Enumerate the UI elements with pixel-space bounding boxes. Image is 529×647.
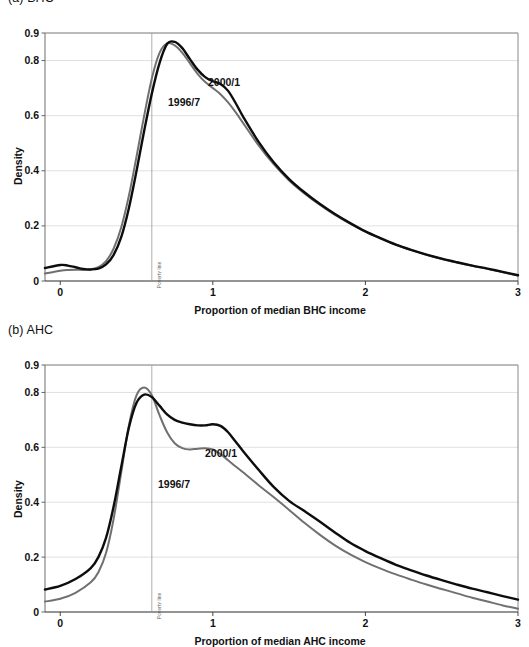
svg-text:0.9: 0.9: [24, 359, 39, 371]
panel-a-poverty-line-label: Poverty line: [157, 262, 162, 288]
svg-text:3: 3: [515, 286, 521, 298]
svg-text:2: 2: [362, 286, 368, 298]
svg-text:3: 3: [515, 617, 521, 629]
panel-a-plot-area: 00.20.40.60.80.90123: [0, 0, 529, 323]
panel-a-y-axis-label: Density: [12, 147, 24, 185]
svg-text:0.4: 0.4: [24, 164, 39, 176]
svg-text:0.4: 0.4: [24, 496, 39, 508]
panel-b-poverty-line-label: Poverty line: [157, 593, 162, 619]
panel-a-label-1996-7: 1996/7: [168, 96, 200, 108]
svg-text:0: 0: [33, 606, 39, 618]
svg-text:0.2: 0.2: [24, 219, 39, 231]
panel-bhc: (a) BHC 00.20.40.60.80.90123 Density Pro…: [0, 0, 529, 323]
svg-text:0.8: 0.8: [24, 386, 39, 398]
panel-a-x-axis-label: Proportion of median BHC income: [160, 304, 400, 316]
svg-text:0: 0: [57, 286, 63, 298]
svg-text:0.6: 0.6: [24, 441, 39, 453]
svg-text:0.8: 0.8: [24, 54, 39, 66]
svg-text:0: 0: [33, 275, 39, 287]
panel-b-svg: 00.20.40.60.80.90123: [0, 323, 529, 646]
panel-a-svg: 00.20.40.60.80.90123: [0, 0, 529, 323]
panel-ahc: (b) AHC 00.20.40.60.80.90123 Density Pro…: [0, 323, 529, 646]
svg-text:1: 1: [210, 286, 216, 298]
svg-text:0.9: 0.9: [24, 27, 39, 39]
svg-text:0.2: 0.2: [24, 551, 39, 563]
panel-b-label-1996-7: 1996/7: [158, 478, 190, 490]
panel-b-x-axis-label: Proportion of median AHC income: [160, 635, 400, 647]
panel-a-label-2000-1: 2000/1: [208, 76, 240, 88]
svg-text:0.6: 0.6: [24, 109, 39, 121]
svg-text:1: 1: [210, 617, 216, 629]
panel-b-plot-area: 00.20.40.60.80.90123: [0, 323, 529, 646]
svg-text:0: 0: [57, 617, 63, 629]
svg-text:2: 2: [362, 617, 368, 629]
panel-b-label-2000-1: 2000/1: [205, 447, 237, 459]
panel-b-y-axis-label: Density: [12, 480, 24, 518]
